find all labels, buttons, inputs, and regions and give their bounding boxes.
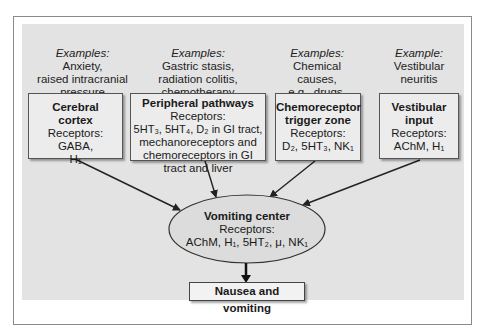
vomiting-center: Vomiting center Receptors: AChM, H₁, 5HT…	[175, 210, 319, 249]
chemoreceptor-trigger-zone-box: Chemoreceptor trigger zone Receptors: D₂…	[275, 93, 361, 161]
peripheral-pathways-box: Peripheral pathways Receptors: 5HT₃, 5HT…	[130, 93, 266, 161]
peripheral-examples: Examples: Gastric stasis, radiation coli…	[148, 47, 248, 99]
arrow-ctz-to-center	[270, 161, 315, 197]
vestibular-input-box: Vestibular input Receptors: AChM, H₁	[379, 93, 459, 159]
cerebral-cortex-box: Cerebral cortex Receptors: GABA, H₁	[28, 93, 123, 159]
vestibular-examples: Example: Vestibular neuritis	[380, 47, 458, 86]
arrow-vestibular-to-center	[303, 160, 420, 205]
nausea-vomiting-box: Nausea and vomiting	[189, 282, 305, 301]
cerebral-examples: Examples: Anxiety, raised intracranial p…	[30, 47, 135, 99]
